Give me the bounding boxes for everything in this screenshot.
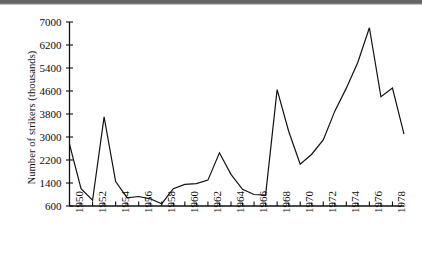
- x-tick-label: 1960: [189, 191, 200, 213]
- y-tick-label: 3800: [18, 109, 62, 120]
- x-tick-label: 1972: [327, 191, 338, 213]
- y-tick-label: 7000: [18, 17, 62, 28]
- x-tick-label: 1976: [373, 191, 384, 213]
- x-tick-label: 1968: [281, 191, 292, 213]
- chart-figure: Number of strikers (thousands) 700062005…: [0, 0, 422, 261]
- y-tick-label: 3000: [18, 132, 62, 143]
- x-tick-label: 1950: [74, 191, 85, 213]
- x-tick-label: 1956: [143, 191, 154, 213]
- x-tick-label: 1962: [212, 191, 223, 213]
- x-tick-label: 1958: [166, 191, 177, 213]
- x-tick-label: 1964: [235, 191, 246, 213]
- y-tick-label: 6200: [18, 40, 62, 51]
- y-tick-label: 1400: [18, 178, 62, 189]
- data-line-series-strikers: [70, 28, 405, 204]
- x-tick-label: 1952: [97, 191, 108, 213]
- y-tick-label: 5400: [18, 63, 62, 74]
- x-tick-label: 1974: [350, 191, 361, 213]
- x-tick-label: 1954: [120, 191, 131, 213]
- axes-group: [70, 22, 405, 206]
- line-chart-plot: [0, 0, 422, 261]
- x-tick-label: 1970: [304, 191, 315, 213]
- x-tick-label: 1978: [396, 191, 407, 213]
- y-tick-label: 2200: [18, 155, 62, 166]
- y-tick-label: 600: [18, 201, 62, 212]
- y-tick-label: 4600: [18, 86, 62, 97]
- x-tick-label: 1966: [258, 191, 269, 213]
